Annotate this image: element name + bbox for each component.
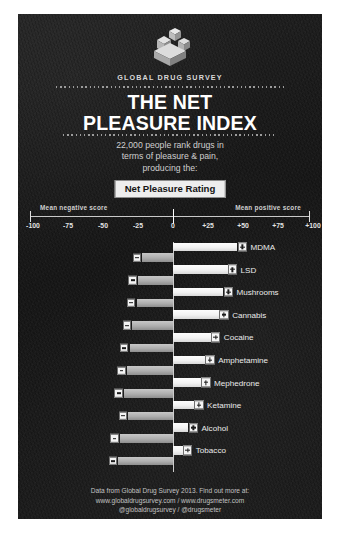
plus-square-icon	[228, 265, 237, 274]
negative-score-bar	[132, 321, 173, 330]
axis-tick-label: +50	[237, 222, 249, 229]
plus-square-icon	[205, 355, 214, 364]
chart-row: Mushrooms	[18, 287, 322, 310]
axis-tick-label: -75	[63, 222, 73, 229]
axis-caption-positive: Mean positive score	[235, 204, 301, 211]
subtitle: 22,000 people rank drugs in terms of ple…	[18, 140, 322, 174]
axis-tick-label: +25	[202, 222, 214, 229]
minus-square-icon	[120, 344, 128, 352]
axis-tick-label: -25	[133, 222, 143, 229]
negative-score-bar	[124, 389, 173, 398]
minus-square-icon	[133, 253, 141, 261]
chart-row: Alcohol	[18, 423, 322, 446]
chart-row: Cocaine	[18, 332, 322, 355]
chart-row: Cannabis	[18, 310, 322, 333]
axis-line	[30, 216, 310, 217]
axis-tick-label: +100	[305, 222, 321, 229]
minus-square-icon	[110, 434, 118, 442]
footer-line-1: Data from Global Drug Survey 2013. Find …	[91, 487, 249, 494]
positive-score-bar	[173, 446, 183, 455]
drug-label: Mushrooms	[236, 288, 278, 297]
positive-score-bar	[173, 423, 188, 432]
divider-dotted-middle	[63, 134, 277, 136]
chart-axis: Mean negative score Mean positive score …	[18, 204, 322, 244]
minus-square-icon	[127, 299, 135, 307]
infographic-poster: GLOBAL DRUG SURVEY THE NET PLEASURE INDE…	[18, 14, 322, 519]
net-pleasure-index-chart: MDMALSDMushroomsCannabisCocaineAmphetami…	[18, 242, 322, 474]
minus-square-icon	[117, 366, 125, 374]
chart-row: MDMA	[18, 242, 322, 265]
global-drug-survey-cubes-logo-icon	[18, 28, 322, 66]
plus-square-icon	[183, 446, 192, 455]
drug-label: Amphetamine	[218, 356, 268, 365]
plus-square-icon	[189, 423, 198, 432]
drug-label: LSD	[241, 265, 257, 274]
chart-row: Amphetamine	[18, 355, 322, 378]
chart-row: LSD	[18, 265, 322, 288]
positive-score-bar	[173, 356, 205, 365]
axis-caption-negative: Mean negative score	[40, 204, 108, 211]
minus-square-icon	[114, 389, 122, 397]
positive-score-bar	[173, 243, 237, 252]
minus-square-icon	[123, 321, 131, 329]
minus-square-icon	[109, 457, 117, 465]
title-line-2: PLEASURE INDEX	[83, 112, 257, 134]
net-pleasure-rating-chip: Net Pleasure Rating	[115, 180, 226, 198]
positive-score-bar	[173, 401, 194, 410]
axis-tick-end	[309, 211, 310, 222]
positive-score-bar	[173, 310, 219, 319]
positive-score-bar	[173, 333, 211, 342]
page-title: THE NET PLEASURE INDEX	[18, 92, 322, 133]
chart-row: Tobacco	[18, 445, 322, 468]
negative-score-bar	[137, 299, 173, 308]
minus-square-icon	[128, 276, 136, 284]
divider-dotted-top	[56, 86, 284, 88]
axis-tick-start	[30, 211, 31, 222]
axis-tick-label: 0	[171, 222, 175, 229]
negative-score-bar	[142, 253, 173, 262]
footer: Data from Global Drug Survey 2013. Find …	[18, 486, 322, 515]
plus-square-icon	[211, 333, 220, 342]
axis-tick-label: +75	[272, 222, 284, 229]
chart-row: Mephedrone	[18, 378, 322, 401]
subtitle-line-1: 22,000 people rank drugs in	[116, 140, 224, 150]
subtitle-line-2: terms of pleasure & pain,	[122, 151, 219, 161]
negative-score-bar	[128, 412, 173, 421]
drug-label: Cannabis	[232, 310, 266, 319]
plus-square-icon	[224, 287, 233, 296]
brand-name: GLOBAL DRUG SURVEY	[18, 73, 322, 82]
negative-score-bar	[120, 434, 173, 443]
subtitle-line-3: producing the:	[142, 163, 197, 173]
plus-square-icon	[219, 310, 228, 319]
plus-square-icon	[194, 400, 203, 409]
drug-label: MDMA	[250, 243, 275, 252]
drug-label: Cocaine	[224, 333, 254, 342]
positive-score-bar	[173, 288, 223, 297]
axis-tick-label: -100	[26, 222, 40, 229]
negative-score-bar	[118, 457, 173, 466]
negative-score-bar	[130, 344, 173, 353]
axis-tick-label: -50	[98, 222, 108, 229]
minus-square-icon	[119, 412, 127, 420]
footer-line-3: @globaldrugsurvey / @drugsmeter	[119, 506, 221, 513]
negative-score-bar	[127, 366, 173, 375]
footer-line-2: www.globaldrugsurvey.com / www.drugsmete…	[96, 497, 244, 504]
drug-label: Mephedrone	[214, 378, 259, 387]
drug-label: Alcohol	[201, 423, 228, 432]
positive-score-bar	[173, 378, 201, 387]
negative-score-bar	[138, 276, 173, 285]
drug-label: Tobacco	[196, 446, 226, 455]
plus-square-icon	[201, 378, 210, 387]
drug-label: Ketamine	[207, 401, 241, 410]
positive-score-bar	[173, 265, 228, 274]
plus-square-icon	[238, 242, 247, 251]
title-line-1: THE NET	[128, 91, 213, 113]
chart-row: Ketamine	[18, 400, 322, 423]
